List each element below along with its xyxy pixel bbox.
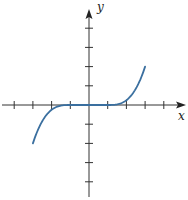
cubic-graph	[0, 0, 188, 200]
x-axis-label: x	[178, 109, 185, 123]
y-axis-label: y	[97, 0, 104, 14]
